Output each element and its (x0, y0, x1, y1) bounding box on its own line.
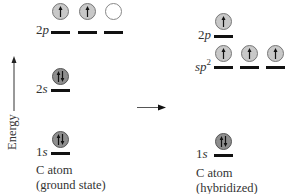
level-label-2s: 2s (36, 82, 48, 95)
level-label-1s: 1s (196, 147, 208, 160)
orbital-half-filled (267, 45, 284, 62)
orbital-full (52, 131, 69, 148)
energy-level-line (266, 66, 285, 69)
spin-up-arrow-icon (80, 4, 95, 19)
hybridized-caption: C atom (hybridized) (196, 166, 258, 194)
spin-up-arrow-icon (242, 46, 257, 61)
energy-level-line (51, 31, 70, 34)
spin-up-arrow-icon (216, 14, 231, 29)
spin-pair-arrows-icon (53, 69, 68, 84)
energy-level-line (214, 66, 233, 69)
orbital-full (52, 68, 69, 85)
spin-pair-arrows-icon (53, 132, 68, 147)
energy-axis-label: Energy (5, 114, 20, 150)
orbital-empty (105, 3, 122, 20)
energy-level-line (51, 89, 70, 92)
energy-level-line (78, 31, 97, 34)
orbital-half-filled (241, 45, 258, 62)
level-label-sp2: sp2 (195, 58, 211, 73)
energy-arrow-icon (9, 55, 19, 113)
energy-level-line (240, 66, 259, 69)
energy-level-line (104, 31, 123, 34)
spin-up-arrow-icon (53, 4, 68, 19)
energy-level-line (51, 152, 70, 155)
level-label-2p: 2p (198, 28, 211, 41)
spin-up-arrow-icon (216, 46, 231, 61)
level-label-1s: 1s (36, 145, 48, 158)
level-label-2p: 2p (36, 23, 49, 36)
orbital-half-filled (215, 13, 232, 30)
orbital-half-filled (52, 3, 69, 20)
energy-level-line (214, 154, 233, 157)
energy-level-line (214, 35, 233, 38)
transition-arrow-icon (136, 103, 168, 112)
spin-up-arrow-icon (268, 46, 283, 61)
orbital-half-filled (79, 3, 96, 20)
ground-state-caption: C atom (ground state) (36, 163, 106, 193)
orbital-full (215, 133, 232, 150)
spin-pair-arrows-icon (216, 134, 231, 149)
orbital-half-filled (215, 45, 232, 62)
